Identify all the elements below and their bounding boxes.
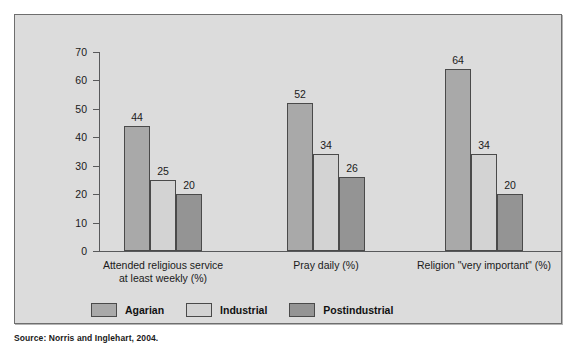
y-tick-label: 0	[53, 246, 87, 257]
bar-value-label: 34	[306, 140, 346, 151]
y-tick-label-wrap: 10	[51, 218, 87, 229]
legend-label: Agarian	[125, 305, 164, 316]
bar	[287, 103, 313, 251]
bar	[497, 194, 523, 251]
y-tick-mark	[93, 223, 100, 224]
x-axis-category-label-line: at least weekly (%)	[63, 272, 263, 285]
source-note: Source: Norris and Inglehart, 2004.	[14, 333, 158, 343]
legend-item[interactable]: Agarian	[91, 303, 164, 317]
y-tick-label: 50	[53, 104, 87, 115]
bar-value-label: 44	[117, 112, 157, 123]
legend-swatch	[186, 303, 212, 317]
bar-value-label: 20	[169, 180, 209, 191]
bar-value-label: 64	[438, 55, 478, 66]
y-tick-label-wrap: 70	[51, 47, 87, 58]
x-axis-category-label: Religion "very important" (%)	[384, 259, 576, 272]
y-tick-mark	[93, 109, 100, 110]
legend-swatch	[91, 303, 117, 317]
y-tick-label: 60	[53, 75, 87, 86]
y-tick-label: 10	[53, 218, 87, 229]
bar-value-label: 34	[464, 140, 504, 151]
x-axis-line	[99, 251, 561, 252]
y-tick-label: 70	[53, 47, 87, 58]
y-tick-label-wrap: 0	[51, 246, 87, 257]
y-tick-mark	[93, 251, 100, 252]
y-tick-mark	[93, 52, 100, 53]
legend-label: Postindustrial	[323, 305, 393, 316]
y-tick-mark	[93, 137, 100, 138]
y-tick-label-wrap: 20	[51, 189, 87, 200]
y-tick-mark	[93, 166, 100, 167]
bar	[471, 154, 497, 251]
legend-label: Industrial	[220, 305, 267, 316]
bar-value-label: 52	[280, 89, 320, 100]
legend-item[interactable]: Postindustrial	[289, 303, 393, 317]
bar	[445, 69, 471, 251]
bar	[124, 126, 150, 251]
y-tick-label: 40	[53, 132, 87, 143]
chart-figure-box: 010203040506070 442520523426643420 Atten…	[14, 14, 562, 324]
bar-value-label: 26	[332, 163, 372, 174]
bar-value-label: 25	[143, 166, 183, 177]
y-tick-label-wrap: 30	[51, 161, 87, 172]
x-axis-category-label-line: Religion "very important" (%)	[384, 259, 576, 272]
y-tick-label-wrap: 60	[51, 75, 87, 86]
bar	[339, 177, 365, 251]
y-tick-label-wrap: 50	[51, 104, 87, 115]
y-tick-mark	[93, 194, 100, 195]
chart-legend: AgarianIndustrialPostindustrial	[91, 303, 393, 317]
y-tick-label: 30	[53, 161, 87, 172]
bar-value-label: 20	[490, 180, 530, 191]
legend-item[interactable]: Industrial	[186, 303, 267, 317]
legend-swatch	[289, 303, 315, 317]
bar	[176, 194, 202, 251]
y-tick-label-wrap: 40	[51, 132, 87, 143]
y-tick-label: 20	[53, 189, 87, 200]
y-tick-mark	[93, 80, 100, 81]
